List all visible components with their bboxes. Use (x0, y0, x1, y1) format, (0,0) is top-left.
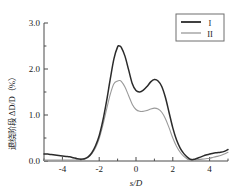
y-axis-title-text: 退绕阶段 ΔD/D（%） (7, 73, 17, 150)
y-tick-label: 3.0 (29, 18, 41, 28)
y-tick-label: 0.0 (29, 156, 41, 166)
x-tick-label: 2 (171, 164, 176, 174)
legend-label-I: I (209, 18, 212, 28)
y-axis-title: 退绕阶段 ΔD/D（%） (7, 73, 17, 150)
chart-canvas: 0.01.02.03.0 -4-2024 退绕阶段 ΔD/D（%） s/D I … (0, 0, 234, 195)
x-tick-label: -4 (59, 164, 67, 174)
data-series-group (44, 46, 228, 161)
series-line-II (44, 80, 228, 160)
x-tick-label: 0 (134, 164, 139, 174)
y-tick-label: 1.0 (29, 110, 41, 120)
x-axis-title-text: s/D (130, 178, 143, 188)
x-tick-label: 4 (207, 164, 212, 174)
chart-figure: 0.01.02.03.0 -4-2024 退绕阶段 ΔD/D（%） s/D I … (0, 0, 234, 195)
y-axis-ticks: 0.01.02.03.0 (29, 18, 48, 166)
legend-frame (176, 14, 224, 41)
x-tick-label: -2 (95, 164, 103, 174)
axes-spines (44, 23, 228, 161)
legend: I II (176, 14, 224, 41)
y-tick-label: 2.0 (29, 64, 41, 74)
series-line-I (44, 46, 228, 160)
legend-label-II: II (207, 29, 213, 39)
